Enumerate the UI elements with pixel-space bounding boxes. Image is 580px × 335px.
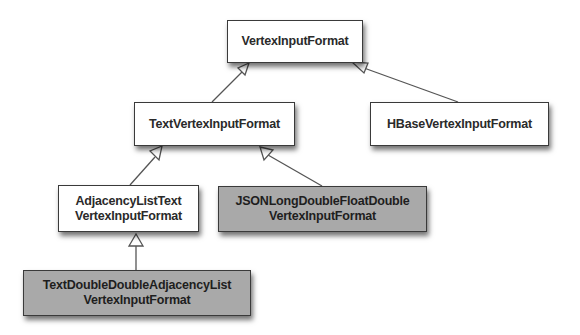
class-box-text-vertex-input-format: TextVertexInputFormat (134, 102, 295, 146)
class-name-line-1: TextDoubleDoubleAdjacencyList (43, 278, 231, 293)
edge-hbase-to-vertex (364, 68, 458, 102)
class-name-line-1: JSONLongDoubleFloatDouble (235, 194, 409, 209)
edge-json-to-text (268, 155, 322, 186)
class-box-adjacency-list-text-vertex-input-format: AdjacencyListText VertexInputFormat (58, 185, 199, 232)
inheritance-arrowhead-icon (150, 146, 162, 160)
class-name: HBaseVertexInputFormat (387, 117, 532, 132)
class-box-vertex-input-format: VertexInputFormat (227, 20, 363, 63)
class-name: TextVertexInputFormat (149, 117, 280, 132)
class-box-json-long-double-float-double-vertex-input-format: JSONLongDoubleFloatDouble VertexInputFor… (218, 186, 427, 232)
inheritance-arrowhead-icon (352, 62, 368, 73)
inheritance-arrowhead-icon (238, 63, 249, 75)
class-name-line-2: VertexInputFormat (269, 209, 376, 224)
class-box-text-double-double-adjacency-list-vertex-input-format: TextDoubleDoubleAdjacencyList VertexInpu… (23, 270, 251, 316)
class-name-line-2: VertexInputFormat (83, 293, 190, 308)
inheritance-arrowhead-icon (260, 147, 273, 160)
class-name: VertexInputFormat (241, 34, 348, 49)
class-name-line-1: AdjacencyListText (75, 194, 181, 209)
edge-adjacency-to-text (130, 157, 155, 185)
inheritance-arrowhead-icon (129, 234, 143, 246)
edge-text-to-vertex (212, 72, 242, 102)
class-name-line-2: VertexInputFormat (75, 209, 182, 224)
class-box-hbase-vertex-input-format: HBaseVertexInputFormat (370, 102, 549, 146)
